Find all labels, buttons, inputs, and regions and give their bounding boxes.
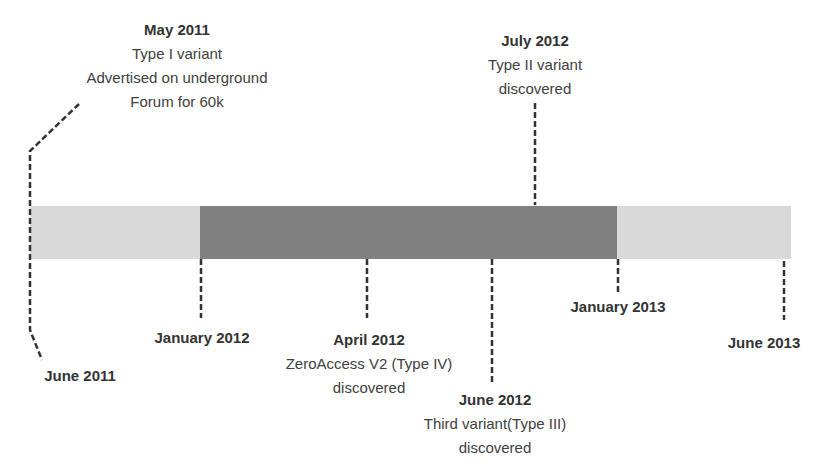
event-text: Type I variant	[87, 42, 268, 66]
event-date: January 2013	[570, 295, 665, 319]
event-text: ZeroAccess V2 (Type IV)	[286, 352, 453, 376]
event-text: Forum for 60k	[87, 90, 268, 114]
event-date: April 2012	[286, 328, 453, 352]
event-text: Third variant(Type III)	[424, 412, 567, 436]
event-june-2011: June 2011	[44, 364, 116, 388]
event-july-2012: July 2012 Type II variant discovered	[488, 29, 582, 101]
event-january-2012: January 2012	[154, 326, 249, 350]
connector-may-june-2011	[30, 104, 79, 360]
event-text: discovered	[424, 436, 567, 460]
event-date: June 2012	[424, 388, 567, 412]
event-date: May 2011	[87, 18, 268, 42]
event-june-2012: June 2012 Third variant(Type III) discov…	[424, 388, 567, 460]
event-text: Type II variant	[488, 53, 582, 77]
event-date: January 2012	[154, 326, 249, 350]
event-january-2013: January 2013	[570, 295, 665, 319]
event-date: June 2011	[44, 364, 116, 388]
event-date: June 2013	[728, 331, 801, 355]
event-june-2013: June 2013	[728, 331, 801, 355]
event-may-2011: May 2011 Type I variant Advertised on un…	[87, 18, 268, 114]
event-text: Advertised on underground	[87, 66, 268, 90]
event-date: July 2012	[488, 29, 582, 53]
event-text: discovered	[488, 77, 582, 101]
